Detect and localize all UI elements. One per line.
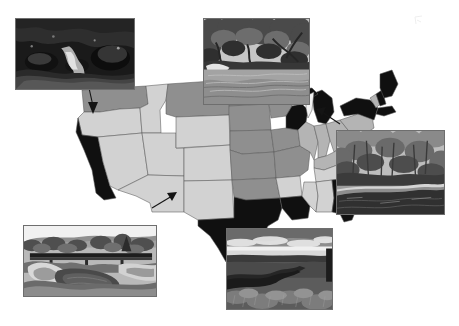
- region-alabama: [316, 180, 334, 212]
- region-wyoming: [176, 115, 230, 148]
- region-oklahoma: [232, 178, 280, 200]
- region-arkansas: [276, 176, 302, 198]
- region-oregon: [78, 108, 142, 137]
- photo-plains-bridge-image: [24, 226, 156, 296]
- photo-southeast-river-image: [204, 19, 309, 104]
- scan-artifact-mark: [412, 14, 428, 28]
- photo-appalachian-stream[interactable]: [336, 130, 445, 215]
- region-massachusetts: [376, 106, 396, 116]
- photo-appalachian-stream-image: [337, 131, 444, 214]
- photo-grassland-channel[interactable]: [226, 228, 333, 310]
- figure-root: [0, 0, 459, 326]
- photo-southeast-river[interactable]: [203, 18, 310, 105]
- region-colorado: [184, 145, 232, 181]
- photo-pacific-northwest[interactable]: [15, 18, 135, 90]
- region-maine: [380, 70, 398, 98]
- region-kansas: [230, 150, 276, 180]
- region-nebraska: [230, 130, 274, 154]
- photo-pacific-northwest-image: [16, 19, 134, 89]
- region-new-mexico: [184, 180, 234, 220]
- photo-grassland-channel-image: [227, 229, 332, 309]
- photo-plains-bridge[interactable]: [23, 225, 157, 297]
- region-missouri: [274, 146, 310, 178]
- region-south-dakota: [229, 104, 271, 131]
